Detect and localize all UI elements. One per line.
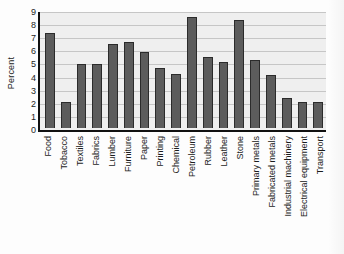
x-axis-tick-label: Paper [140,136,149,160]
bar-chart: Percent 9876543210 FoodTobaccoTextilesFa… [0,0,344,254]
scan-edge-artifact [328,0,344,254]
x-axis-tick-label: Rubber [204,136,213,166]
y-axis-tick-label: 8 [31,21,36,30]
bar [203,57,213,128]
x-axis-category-labels: FoodTobaccoTextilesFabricsLumberFurnitur… [40,134,328,250]
x-axis-tick-label: Food [44,136,53,157]
bar-slot [74,12,90,128]
bar-slot [105,12,121,128]
bar [108,44,118,128]
bar-slot [58,12,74,128]
y-axis-tick-label: 2 [31,99,36,108]
bar-slot [137,12,153,128]
x-axis-tick-label: Fabrics [92,136,101,166]
bar-series [42,12,326,128]
bar-slot [247,12,263,128]
x-axis-tick-label: Tobacco [60,136,69,170]
y-axis-tick-label: 9 [31,8,36,17]
x-axis-category-slot: Printing [152,134,168,250]
x-axis-category-slot: Paper [136,134,152,250]
x-axis-tick-label: Stone [236,136,245,160]
x-axis-tick-label: Furniture [124,136,133,172]
bar-slot [200,12,216,128]
x-axis-tick-label: Leather [220,136,229,167]
x-axis-tick-label: Electrical equipment [300,136,309,217]
bar [266,75,276,128]
x-axis-category-slot: Food [40,134,56,250]
x-axis-category-slot: Textiles [72,134,88,250]
bar [45,33,55,128]
y-axis-tick-label: 5 [31,60,36,69]
bar-slot [263,12,279,128]
gridline [40,130,326,131]
bar [61,102,71,128]
y-axis-tick-label: 3 [31,86,36,95]
x-axis-tick-label: Transport [316,136,325,174]
bar-slot [89,12,105,128]
bar [124,42,134,128]
bar-slot [231,12,247,128]
y-axis-title-label: Percent [6,57,16,89]
bar [140,52,150,128]
x-axis-tick-label: Textiles [76,136,85,166]
bar [282,98,292,128]
x-axis-category-slot: Furniture [120,134,136,250]
x-axis-tick-label: Industrial machinery [284,136,293,217]
bar [219,62,229,128]
bar [92,64,102,128]
x-axis-category-slot: Rubber [200,134,216,250]
bar [77,64,87,128]
bar-slot [184,12,200,128]
bar [187,17,197,128]
x-axis-category-slot: Chemical [168,134,184,250]
bar [155,68,165,128]
bar [313,102,323,128]
bar-slot [216,12,232,128]
x-axis-category-slot: Fabrics [88,134,104,250]
bar [298,102,308,128]
x-axis-tick-label: Petroleum [188,136,197,177]
x-axis-category-slot: Lumber [104,134,120,250]
x-axis-tick-label: Fabricated metals [268,136,277,208]
bar-slot [310,12,326,128]
bar-slot [152,12,168,128]
bar-slot [42,12,58,128]
plot-wrapper: 9876543210 [38,12,326,132]
x-axis-category-slot: Electrical equipment [296,134,312,250]
bar-slot [279,12,295,128]
bar-slot [168,12,184,128]
x-axis-category-slot: Industrial machinery [280,134,296,250]
plot-area: 9876543210 [38,12,326,132]
x-axis-category-slot: Transport [312,134,328,250]
bar-slot [295,12,311,128]
y-axis-tick-label: 0 [31,126,36,135]
x-axis-category-slot: Primary metals [248,134,264,250]
x-axis-tick-label: Primary metals [252,136,261,196]
x-axis-category-slot: Tobacco [56,134,72,250]
bar [250,60,260,128]
x-axis-category-slot: Leather [216,134,232,250]
x-axis-tick-label: Chemical [172,136,181,174]
x-axis-category-slot: Stone [232,134,248,250]
y-axis-tick-label: 4 [31,73,36,82]
y-axis-title: Percent [4,38,18,108]
bar-slot [121,12,137,128]
bar [234,20,244,128]
x-axis-tick-label: Printing [156,136,165,167]
y-axis-tick-label: 1 [31,112,36,121]
x-axis-tick-label: Lumber [108,136,117,167]
y-axis-tick-label: 7 [31,34,36,43]
bar [171,74,181,128]
x-axis-category-slot: Petroleum [184,134,200,250]
y-axis-tick-label: 6 [31,47,36,56]
x-axis-category-slot: Fabricated metals [264,134,280,250]
